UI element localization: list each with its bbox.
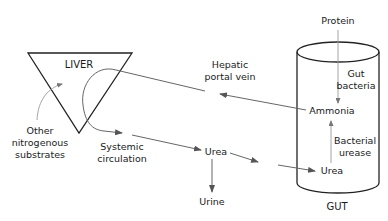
other-substrates-label-1: Other: [27, 125, 54, 136]
liver-label: LIVER: [65, 59, 94, 70]
hepatic-portal-label-2: portal vein: [204, 71, 255, 82]
bacterial-urease-label-2: urease: [339, 147, 371, 158]
hepatic-portal-line: [116, 70, 205, 91]
other-substrates-label-3: substrates: [15, 149, 65, 160]
other-substrates-label-2: nitrogenous: [12, 137, 69, 148]
urine-label: Urine: [199, 196, 225, 207]
urea-to-gut-arrow-1: [230, 153, 258, 162]
other-substrates-arrow: [37, 84, 62, 120]
liver-to-systemic-arrow: [83, 69, 122, 133]
urea-blood-label: Urea: [205, 146, 227, 157]
gut-label: GUT: [326, 201, 348, 212]
hepatic-portal-arrow: [220, 94, 306, 110]
bacterial-urease-label-1: Bacterial: [334, 135, 376, 146]
gut-bacteria-label-2: bacteria: [336, 80, 375, 91]
urea-gut-label: Urea: [321, 165, 343, 176]
nitrogen-cycle-diagram: LIVER GUT Protein Gut bacteria Ammonia B…: [0, 0, 388, 221]
gut-bacteria-label-1: Gut: [347, 68, 364, 79]
systemic-label-2: circulation: [97, 153, 146, 164]
protein-label: Protein: [321, 15, 354, 26]
hepatic-portal-label-1: Hepatic: [212, 59, 248, 70]
ammonia-label: Ammonia: [309, 105, 354, 116]
systemic-label-1: Systemic: [100, 141, 143, 152]
